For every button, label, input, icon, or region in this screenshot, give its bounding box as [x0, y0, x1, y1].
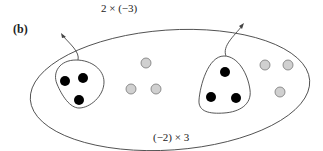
gray-dot [260, 60, 270, 70]
black-dot [60, 76, 70, 86]
gray-dot [141, 58, 151, 68]
middle-gray-dots [126, 58, 161, 94]
black-dot [231, 93, 241, 103]
left-arrow-head [61, 33, 66, 38]
black-dot [220, 67, 230, 77]
gray-dot [283, 60, 293, 70]
gray-dot [126, 84, 136, 94]
right-gray-dots [260, 60, 293, 97]
set-diagram [0, 0, 323, 151]
gray-dot [275, 87, 285, 97]
gray-dot [151, 84, 161, 94]
right-group-loop [199, 56, 250, 113]
outer-ellipse [26, 20, 314, 151]
black-dot [206, 92, 216, 102]
left-group-dots [60, 73, 88, 105]
right-group-dots [206, 67, 241, 103]
black-dot [78, 73, 88, 83]
black-dot [74, 95, 84, 105]
right-arrow [225, 26, 242, 56]
